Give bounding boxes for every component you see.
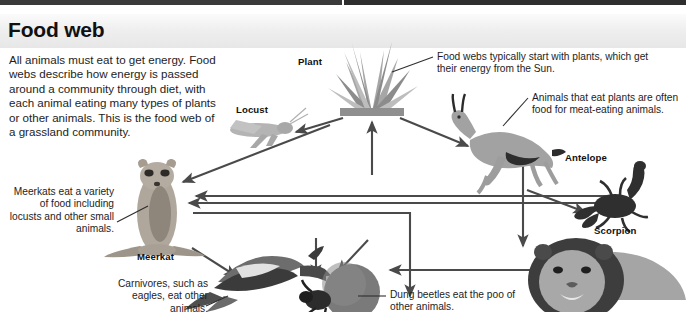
- callout-eagle: Carnivores, such as eagles, eat other an…: [110, 278, 208, 312]
- infographic-page: Food web All animals must eat to get ene…: [0, 0, 686, 312]
- lion-icon: [528, 238, 686, 312]
- grass-tuft-icon: [328, 42, 418, 116]
- species-label-antelope: Antelope: [565, 152, 607, 163]
- callout-plant: Food webs typically start with plants, w…: [437, 51, 659, 76]
- species-label-scorpion: Scorpion: [594, 225, 636, 236]
- callout-dungbeetle: Dung beetles eat the poo of other animal…: [390, 289, 530, 312]
- meerkat-icon: [104, 159, 205, 257]
- callout-meerkat: Meerkats eat a variety of food including…: [6, 186, 114, 236]
- species-label-locust: Locust: [236, 104, 268, 115]
- arrow-antelope-to-scorpion: [527, 190, 585, 212]
- species-label-plant: Plant: [298, 56, 322, 67]
- species-label-meerkat: Meerkat: [137, 251, 174, 262]
- callout-antelope: Animals that eat plants are often food f…: [532, 92, 682, 117]
